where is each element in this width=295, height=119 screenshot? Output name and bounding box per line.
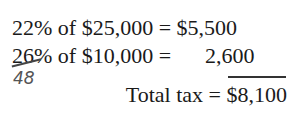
total-tax-line: Total tax = $8,100: [126, 83, 287, 107]
tax-line-2-value: 2,600: [177, 44, 255, 68]
tax-line-1: 22% of $25,000 = $5,500: [12, 16, 237, 40]
handwritten-correction: 48: [13, 68, 35, 88]
sum-rule: [228, 76, 286, 78]
tax-line-2: 26% of $10,000 = 2,600: [12, 44, 255, 68]
